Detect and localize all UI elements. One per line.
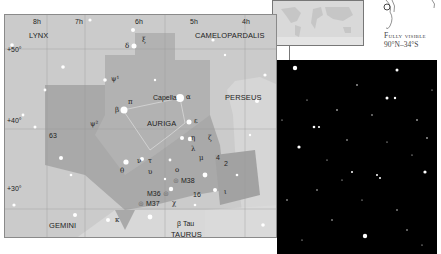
star-label-omicron: ο	[175, 167, 179, 174]
star-field-image	[277, 60, 437, 254]
star-label-iota: ι	[224, 189, 227, 196]
star-label-capella: Capella	[153, 94, 177, 101]
cluster-name: M38	[181, 177, 195, 184]
ra-label-4h: 4h	[242, 18, 250, 25]
visibility-info: Fully visible 90°N–34°S	[384, 32, 426, 49]
ra-label-7h: 7h	[75, 18, 83, 25]
ra-label-6h: 6h	[135, 18, 143, 25]
cluster-name: M37	[146, 200, 160, 207]
ra-label-8h: 8h	[33, 18, 41, 25]
star-label-beta: β	[115, 107, 119, 114]
world-map-icon	[273, 1, 363, 45]
star-label-2: 2	[224, 160, 228, 167]
constellation-camelopardalis: CAMELOPARDALIS	[195, 32, 265, 40]
connector-line	[289, 46, 290, 60]
star-field-photo	[277, 60, 437, 254]
cluster-label-m36: M36 ⊛	[147, 190, 169, 197]
star-label-mu: μ	[199, 155, 204, 162]
star-label-epsilon: ε	[194, 118, 198, 125]
star-label-63: 63	[49, 132, 57, 139]
cluster-label-m37: ⊛ M37	[138, 200, 160, 207]
dec-label-30: +30°	[7, 185, 22, 192]
world-map-inset	[272, 0, 364, 46]
constellation-perseus: PERSEUS	[225, 94, 262, 102]
cluster-icon: ⊛	[173, 177, 181, 184]
star-label-nu: ν	[137, 158, 141, 165]
star-label-pi: π	[128, 99, 133, 106]
cluster-label-m38: ⊛ M38	[173, 177, 195, 184]
star-chart: 8h 7h 6h 5h 4h +50° +40° +30° LYNX CAMEL…	[4, 14, 277, 238]
star-label-kappa: κ	[115, 217, 119, 224]
constellation-gemini: GEMINI	[49, 222, 76, 230]
star-label-alpha: α	[186, 94, 191, 101]
cluster-name: M36	[147, 190, 161, 197]
star-label-eta: η	[191, 135, 195, 142]
dec-label-40: +40°	[7, 117, 22, 124]
cluster-icon: ⊛	[138, 200, 146, 207]
visibility-range: 90°N–34°S	[384, 41, 426, 50]
cluster-icon: ⊛	[161, 190, 169, 197]
constellation-lynx: LYNX	[29, 32, 48, 40]
ra-label-5h: 5h	[190, 18, 198, 25]
star-label-psi1: ψ¹	[111, 76, 119, 83]
star-label-theta: θ	[120, 168, 124, 175]
visibility-globe	[382, 0, 440, 30]
star-label-lambda: λ	[191, 146, 195, 153]
star-label-xi: ξ	[142, 37, 146, 44]
star-label-upsilon: υ	[148, 169, 152, 176]
star-label-beta-tau: β Tau	[177, 220, 194, 227]
star-label-psi2: ψ²	[90, 121, 98, 128]
dec-label-50: +50°	[7, 46, 22, 53]
star-label-4: 4	[216, 154, 220, 161]
hemisphere-icon	[382, 0, 440, 30]
constellation-auriga: AURIGA	[147, 120, 176, 128]
star-label-delta: δ	[125, 43, 129, 50]
star-label-zeta: ζ	[208, 135, 212, 142]
star-label-tau: τ	[148, 158, 152, 165]
star-label-16: 16	[193, 191, 201, 198]
star-label-chi: χ	[172, 200, 176, 207]
constellation-taurus: TAURUS	[171, 231, 202, 238]
